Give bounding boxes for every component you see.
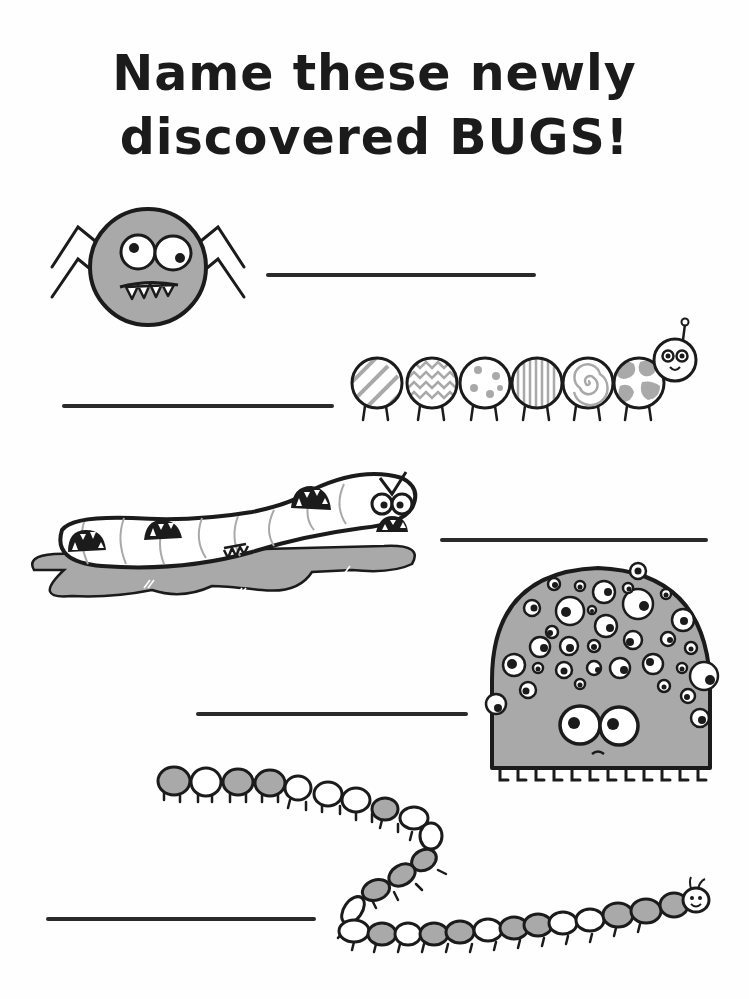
title-line-1: Name these newly [0, 42, 749, 106]
spider-bug-icon [48, 205, 248, 330]
title-line-2: discovered BUGS! [0, 106, 749, 170]
caterpillar-icon [348, 316, 708, 422]
answer-field-2[interactable] [62, 374, 338, 406]
answer-field-5[interactable] [46, 887, 320, 919]
page-title: Name these newly discovered BUGS! [0, 42, 749, 170]
answer-field-4[interactable] [196, 682, 472, 714]
spider-bug [48, 205, 248, 330]
worksheet-page: Name these newly discovered BUGS! [0, 0, 749, 999]
patterned-caterpillar-bug [348, 316, 708, 422]
worm-icon [24, 470, 424, 610]
centipede-icon [150, 752, 710, 952]
answer-field-1[interactable] [266, 243, 540, 275]
worm-bug [24, 470, 424, 610]
centipede-bug [150, 752, 710, 952]
answer-field-3[interactable] [440, 508, 712, 540]
